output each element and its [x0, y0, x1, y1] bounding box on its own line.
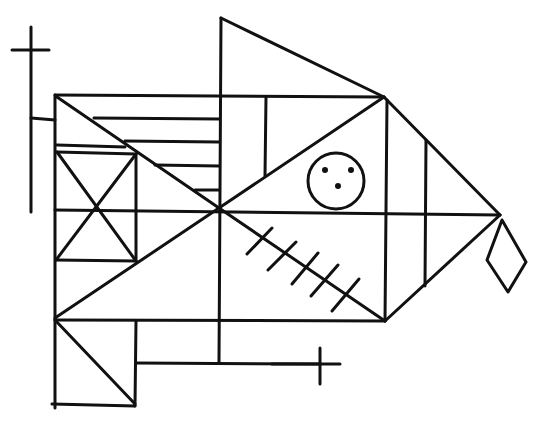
eye-icon	[308, 153, 364, 209]
fish-drawing	[0, 0, 544, 421]
hatch-marks	[247, 228, 359, 311]
top-left-cross	[12, 27, 55, 212]
fish-svg	[0, 0, 544, 421]
bottom-cross	[272, 348, 340, 384]
x-box	[56, 152, 136, 261]
diamond	[487, 220, 526, 292]
fish-body	[55, 18, 500, 408]
